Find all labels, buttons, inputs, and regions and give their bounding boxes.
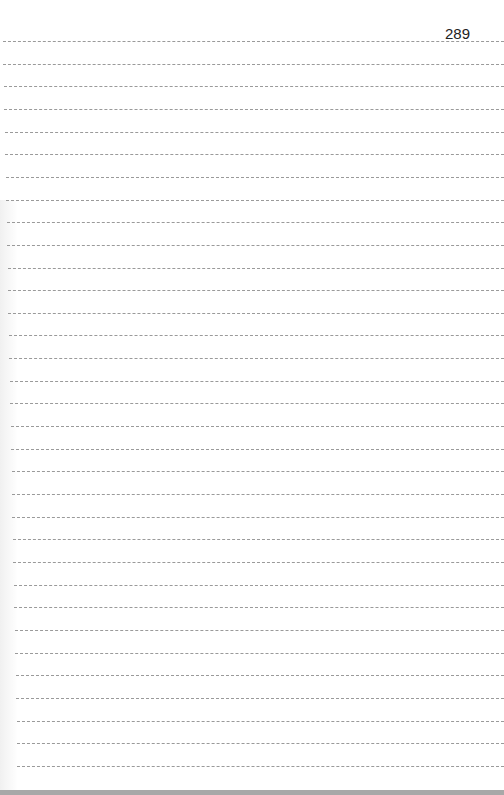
ruled-line [13, 562, 504, 563]
ruled-line [7, 245, 504, 246]
ruled-line [5, 154, 504, 155]
ruled-line [12, 517, 504, 518]
page-number: 289 [445, 25, 470, 42]
ruled-line [15, 630, 504, 631]
ruled-line [14, 585, 504, 586]
ruled-line [3, 41, 504, 42]
ruled-line [14, 607, 504, 608]
ruled-line [6, 200, 504, 201]
ruled-line [16, 698, 504, 699]
ruled-line [13, 539, 504, 540]
ruled-line [11, 426, 504, 427]
ruled-line [17, 743, 504, 744]
ruled-line [6, 177, 504, 178]
ruled-line [15, 653, 504, 654]
ruled-line [8, 290, 504, 291]
ruled-line [9, 335, 504, 336]
ruled-line [10, 403, 504, 404]
ruled-line [12, 494, 504, 495]
ruled-line [4, 109, 504, 110]
ruled-line [5, 132, 504, 133]
ruled-line [8, 313, 504, 314]
ruled-line [3, 64, 504, 65]
ruled-line [4, 86, 504, 87]
ruled-line [17, 766, 504, 767]
ruled-line [12, 471, 504, 472]
ruled-line [10, 381, 504, 382]
notebook-page: 289 [0, 0, 504, 795]
ruled-line [17, 721, 504, 722]
ruled-line [7, 222, 504, 223]
page-edge-shadow [0, 200, 18, 790]
ruled-line [11, 449, 504, 450]
bottom-edge [0, 790, 504, 795]
ruled-line [16, 675, 504, 676]
ruled-line [9, 358, 504, 359]
ruled-line [8, 268, 504, 269]
